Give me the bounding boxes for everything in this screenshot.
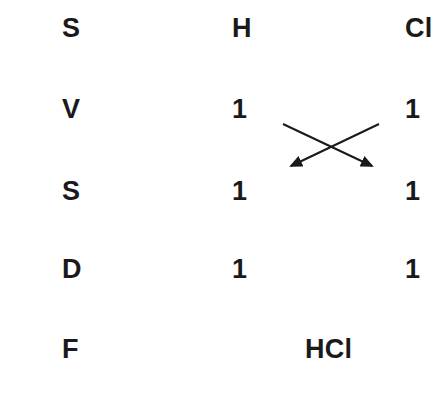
formula-result: HCl — [305, 336, 352, 363]
symbol-first-element: H — [232, 15, 252, 42]
arrow-down-right — [283, 124, 372, 166]
symbol-second-element: Cl — [405, 15, 433, 42]
row-label-divide: D — [62, 256, 82, 283]
valency-first-element: 1 — [232, 96, 247, 123]
arrow-down-left — [291, 124, 379, 166]
row-label-valency: V — [62, 96, 80, 123]
divide-second-element: 1 — [405, 256, 420, 283]
row-label-swap: S — [62, 178, 80, 205]
criss-cross-diagram: S H Cl V 1 1 S 1 1 D 1 1 F HCl — [0, 0, 442, 398]
swap-first-element: 1 — [232, 178, 247, 205]
divide-first-element: 1 — [232, 256, 247, 283]
row-label-symbol: S — [62, 15, 80, 42]
row-label-formula: F — [62, 336, 79, 363]
swap-second-element: 1 — [405, 178, 420, 205]
valency-second-element: 1 — [405, 96, 420, 123]
